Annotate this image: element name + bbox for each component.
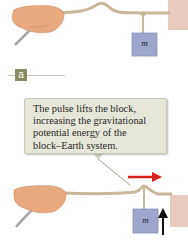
callout-line: The pulse lifts the block, (33, 103, 161, 115)
rope-a (60, 3, 170, 13)
wall-b (170, 195, 188, 227)
callout-line: potential energy of the (33, 127, 161, 139)
callout-pointer-line (98, 159, 130, 185)
callout-line: increasing the gravitational (33, 115, 161, 127)
rope-b (62, 186, 172, 194)
panel-label-a: a (15, 69, 27, 81)
callout-box: The pulse lifts the block, increasing th… (24, 98, 167, 154)
hand-a-icon (12, 6, 64, 33)
mass-label-b: m (133, 215, 158, 225)
mass-label-a: m (132, 38, 157, 48)
wall-a (168, 0, 188, 30)
callout-line: block–Earth system. (33, 140, 161, 152)
hand-b-icon (14, 186, 66, 213)
